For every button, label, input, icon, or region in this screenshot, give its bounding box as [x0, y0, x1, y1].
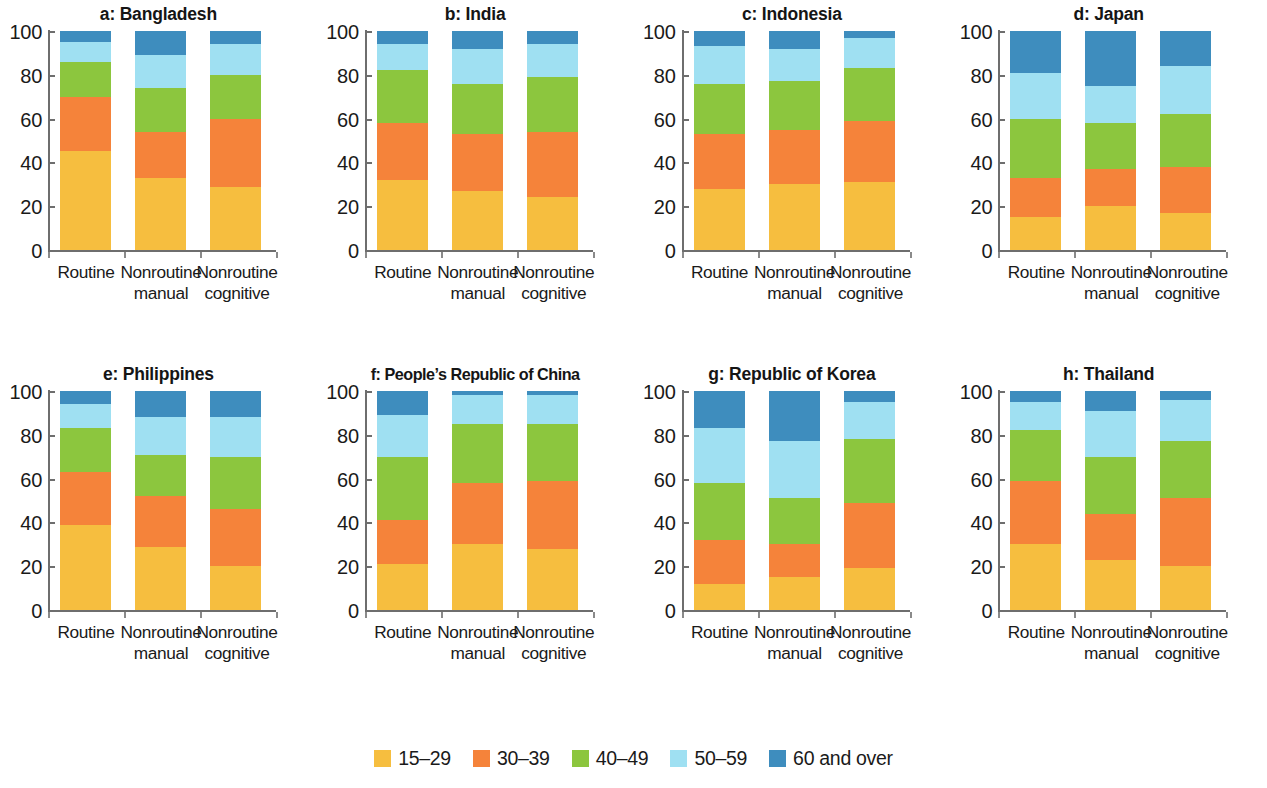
bar-segment-15–29[interactable] — [844, 568, 895, 610]
bar-segment-40–49[interactable] — [844, 439, 895, 503]
bar-segment-60-and-over[interactable] — [694, 31, 745, 46]
bar-segment-30–39[interactable] — [694, 540, 745, 584]
bar-f-nonroutine-cognitive[interactable] — [527, 391, 578, 610]
bar-segment-30–39[interactable] — [769, 130, 820, 185]
bar-segment-30–39[interactable] — [844, 121, 895, 182]
bar-segment-15–29[interactable] — [1160, 213, 1211, 250]
bar-segment-40–49[interactable] — [1085, 123, 1136, 169]
bar-segment-50–59[interactable] — [694, 428, 745, 483]
bar-segment-15–29[interactable] — [527, 197, 578, 250]
legend-item-2[interactable]: 40–49 — [572, 747, 649, 770]
bar-segment-50–59[interactable] — [527, 44, 578, 77]
bar-segment-50–59[interactable] — [135, 55, 186, 88]
bar-g-nonroutine-cognitive[interactable] — [844, 391, 895, 610]
bar-segment-60-and-over[interactable] — [210, 31, 261, 44]
bar-segment-40–49[interactable] — [527, 424, 578, 481]
bar-segment-50–59[interactable] — [769, 49, 820, 82]
bar-segment-30–39[interactable] — [210, 119, 261, 187]
bar-segment-30–39[interactable] — [1010, 178, 1061, 217]
bar-c-nonroutine-manual[interactable] — [769, 31, 820, 250]
legend-item-1[interactable]: 30–39 — [473, 747, 550, 770]
bar-c-nonroutine-cognitive[interactable] — [844, 31, 895, 250]
bar-segment-40–49[interactable] — [769, 498, 820, 544]
bar-segment-30–39[interactable] — [527, 481, 578, 549]
bar-e-routine[interactable] — [60, 391, 111, 610]
bar-h-nonroutine-cognitive[interactable] — [1160, 391, 1211, 610]
bar-segment-40–49[interactable] — [210, 75, 261, 119]
bar-h-routine[interactable] — [1010, 391, 1061, 610]
bar-f-nonroutine-manual[interactable] — [452, 391, 503, 610]
bar-segment-60-and-over[interactable] — [1010, 31, 1061, 73]
bar-segment-40–49[interactable] — [1010, 430, 1061, 480]
bar-segment-50–59[interactable] — [210, 44, 261, 75]
bar-segment-15–29[interactable] — [769, 184, 820, 250]
bar-g-nonroutine-manual[interactable] — [769, 391, 820, 610]
bar-segment-15–29[interactable] — [452, 191, 503, 250]
bar-segment-30–39[interactable] — [694, 134, 745, 189]
bar-segment-30–39[interactable] — [527, 132, 578, 198]
bar-segment-50–59[interactable] — [694, 46, 745, 83]
bar-segment-60-and-over[interactable] — [1085, 31, 1136, 86]
bar-segment-60-and-over[interactable] — [210, 391, 261, 417]
bar-segment-60-and-over[interactable] — [377, 391, 428, 415]
bar-segment-60-and-over[interactable] — [60, 31, 111, 42]
bar-d-nonroutine-cognitive[interactable] — [1160, 31, 1211, 250]
bar-segment-30–39[interactable] — [210, 509, 261, 566]
bar-segment-40–49[interactable] — [135, 88, 186, 132]
bar-segment-40–49[interactable] — [60, 62, 111, 97]
bar-segment-15–29[interactable] — [60, 525, 111, 610]
bar-a-routine[interactable] — [60, 31, 111, 250]
bar-segment-40–49[interactable] — [452, 424, 503, 483]
bar-segment-15–29[interactable] — [210, 566, 261, 610]
bar-segment-60-and-over[interactable] — [1160, 391, 1211, 400]
bar-segment-30–39[interactable] — [769, 544, 820, 577]
bar-segment-40–49[interactable] — [527, 77, 578, 132]
bar-segment-15–29[interactable] — [452, 544, 503, 610]
bar-segment-15–29[interactable] — [527, 549, 578, 610]
bar-segment-60-and-over[interactable] — [452, 31, 503, 49]
bar-segment-30–39[interactable] — [844, 503, 895, 569]
bar-segment-40–49[interactable] — [377, 70, 428, 123]
bar-segment-60-and-over[interactable] — [60, 391, 111, 404]
bar-segment-15–29[interactable] — [210, 187, 261, 251]
bar-segment-40–49[interactable] — [377, 457, 428, 521]
legend-item-0[interactable]: 15–29 — [374, 747, 451, 770]
bar-segment-40–49[interactable] — [769, 81, 820, 129]
legend-item-3[interactable]: 50–59 — [670, 747, 747, 770]
bar-segment-30–39[interactable] — [377, 520, 428, 564]
bar-segment-50–59[interactable] — [1010, 402, 1061, 430]
bar-segment-50–59[interactable] — [60, 42, 111, 62]
bar-segment-50–59[interactable] — [452, 49, 503, 84]
bar-segment-50–59[interactable] — [1160, 400, 1211, 442]
bar-segment-30–39[interactable] — [1160, 167, 1211, 213]
bar-segment-15–29[interactable] — [1085, 560, 1136, 610]
bar-segment-40–49[interactable] — [1010, 119, 1061, 178]
bar-segment-40–49[interactable] — [694, 483, 745, 540]
bar-segment-50–59[interactable] — [769, 441, 820, 498]
bar-segment-40–49[interactable] — [1160, 441, 1211, 498]
bar-e-nonroutine-manual[interactable] — [135, 391, 186, 610]
bar-segment-15–29[interactable] — [135, 547, 186, 611]
bar-segment-15–29[interactable] — [1160, 566, 1211, 610]
bar-segment-40–49[interactable] — [452, 84, 503, 134]
bar-segment-15–29[interactable] — [377, 180, 428, 250]
bar-segment-60-and-over[interactable] — [769, 31, 820, 49]
bar-segment-15–29[interactable] — [1085, 206, 1136, 250]
bar-a-nonroutine-cognitive[interactable] — [210, 31, 261, 250]
bar-segment-40–49[interactable] — [135, 455, 186, 497]
bar-b-routine[interactable] — [377, 31, 428, 250]
bar-segment-15–29[interactable] — [769, 577, 820, 610]
bar-segment-30–39[interactable] — [452, 134, 503, 191]
bar-segment-50–59[interactable] — [1010, 73, 1061, 119]
bar-segment-30–39[interactable] — [60, 97, 111, 152]
bar-segment-30–39[interactable] — [1085, 514, 1136, 560]
bar-b-nonroutine-cognitive[interactable] — [527, 31, 578, 250]
bar-h-nonroutine-manual[interactable] — [1085, 391, 1136, 610]
bar-segment-60-and-over[interactable] — [135, 391, 186, 417]
bar-segment-15–29[interactable] — [1010, 217, 1061, 250]
bar-segment-15–29[interactable] — [377, 564, 428, 610]
bar-segment-30–39[interactable] — [452, 483, 503, 544]
bar-segment-15–29[interactable] — [1010, 544, 1061, 610]
bar-segment-50–59[interactable] — [1085, 411, 1136, 457]
bar-segment-60-and-over[interactable] — [135, 31, 186, 55]
